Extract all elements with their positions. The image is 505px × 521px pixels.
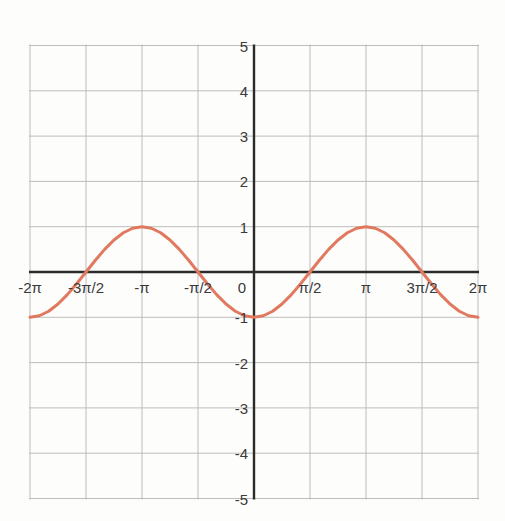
y-tick-label: -1 (235, 310, 248, 325)
y-tick-label: -3 (235, 400, 248, 415)
x-tick-label: π (361, 280, 371, 295)
x-tick-label: -3π/2 (68, 280, 104, 295)
x-tick-label: -π/2 (184, 280, 212, 295)
y-tick-label: -2 (235, 355, 248, 370)
y-tick-label: 3 (240, 129, 248, 144)
x-tick-label: -2π (18, 280, 42, 295)
y-tick-label: 5 (240, 38, 248, 53)
y-tick-label: -4 (235, 446, 248, 461)
y-tick-label: 2 (240, 174, 248, 189)
plot-area (0, 0, 505, 521)
x-tick-label: 2π (469, 280, 488, 295)
chart-container: -2π-3π/2-π-π/20π/2π3π/22π 54321-1-2-3-4-… (0, 0, 505, 521)
x-tick-label: π/2 (299, 280, 322, 295)
y-tick-label: 4 (240, 83, 248, 98)
x-tick-label: -π (134, 280, 149, 295)
x-tick-label: 3π/2 (406, 280, 437, 295)
y-tick-label: -5 (235, 491, 248, 506)
x-tick-label: 0 (238, 280, 246, 295)
y-tick-label: 1 (240, 219, 248, 234)
